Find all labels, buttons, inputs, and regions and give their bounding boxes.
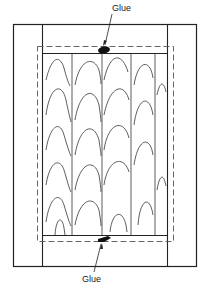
bottom-glue-spot — [98, 236, 111, 242]
bottom-glue-leader — [94, 244, 101, 272]
panel-groove-dashed-outline — [38, 47, 174, 242]
panel-boards — [72, 54, 155, 236]
top-glue-arrowhead — [103, 40, 107, 46]
door-diagram: Glue Glue — [0, 0, 209, 297]
top-glue-label: Glue — [112, 3, 131, 13]
bottom-glue-label: Glue — [82, 274, 101, 284]
wood-grain — [46, 58, 166, 235]
top-glue-leader — [105, 14, 112, 45]
